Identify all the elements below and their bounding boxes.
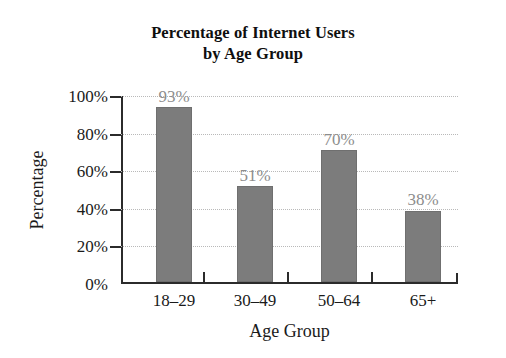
x-axis-category-18-29: 18–29 <box>153 292 196 309</box>
x-axis-title: Age Group <box>121 320 458 342</box>
y-axis-line <box>121 96 123 284</box>
x-axis-end-tick <box>456 273 458 284</box>
bar-18-29[interactable] <box>156 107 192 282</box>
y-axis-label-100: 100% <box>68 88 108 105</box>
bar-50-64[interactable] <box>321 150 357 282</box>
y-tick-20 <box>110 246 121 248</box>
bar-value-50-64: 70% <box>323 131 354 148</box>
y-axis-title: Percentage <box>26 96 48 284</box>
x-axis-line <box>121 282 458 284</box>
bar-30-49[interactable] <box>237 186 273 282</box>
y-axis-label-80: 80% <box>77 125 108 142</box>
bar-chart-figure: Percentage of Internet Users by Age Grou… <box>0 0 506 358</box>
x-tick-separator-3 <box>371 272 373 284</box>
y-tick-40 <box>110 209 121 211</box>
y-tick-60 <box>110 171 121 173</box>
chart-title-line-2: by Age Group <box>0 43 506 64</box>
y-tick-100 <box>110 96 121 98</box>
chart-title: Percentage of Internet Users by Age Grou… <box>0 22 506 64</box>
y-axis-label-60: 60% <box>77 163 108 180</box>
x-axis-category-30-49: 30–49 <box>234 292 277 309</box>
bar-value-18-29: 93% <box>158 88 189 105</box>
bar-value-30-49: 51% <box>239 167 270 184</box>
plot-area: 100% 80% 60% 40% 20% 0% 93% 18–29 51% 30… <box>121 96 458 284</box>
y-axis-label-0: 0% <box>85 276 108 293</box>
x-tick-separator-2 <box>287 272 289 284</box>
bar-value-65-plus: 38% <box>407 191 438 208</box>
bar-65-plus[interactable] <box>405 211 441 282</box>
x-axis-category-65-plus: 65+ <box>410 292 437 309</box>
x-tick-separator-1 <box>203 272 205 284</box>
y-axis-label-40: 40% <box>77 200 108 217</box>
x-axis-category-50-64: 50–64 <box>318 292 361 309</box>
y-tick-80 <box>110 134 121 136</box>
chart-title-line-1: Percentage of Internet Users <box>0 22 506 43</box>
y-axis-label-20: 20% <box>77 238 108 255</box>
